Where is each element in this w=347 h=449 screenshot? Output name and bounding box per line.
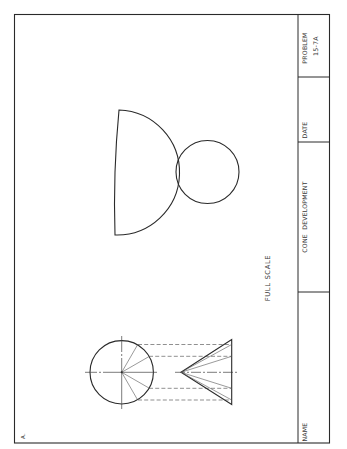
radial-element-line [122, 372, 149, 388]
problem-label: PROBLEM [301, 32, 308, 63]
name-label: NAME [301, 423, 308, 442]
cone-top-view [85, 336, 157, 409]
sheet-border [15, 15, 330, 444]
development-sector [115, 110, 180, 235]
radial-element-line [122, 372, 138, 399]
radial-element-line [122, 357, 149, 373]
center-point [121, 371, 123, 373]
drawing-sheet: A. FULL SCALE NAME CONE DEVELOPMENT DATE… [0, 0, 347, 449]
problem-number: 15-7A [312, 36, 320, 56]
cone-front-view [175, 340, 237, 405]
part-label: A. [20, 433, 26, 439]
cone-development-pattern [115, 110, 240, 235]
date-label: DATE [301, 122, 308, 139]
development-base-circle [176, 141, 239, 204]
drawing-title: CONE DEVELOPMENT [301, 181, 308, 252]
radial-element-line [122, 345, 138, 372]
scale-note: FULL SCALE [264, 255, 272, 301]
drawing-canvas [0, 0, 347, 449]
